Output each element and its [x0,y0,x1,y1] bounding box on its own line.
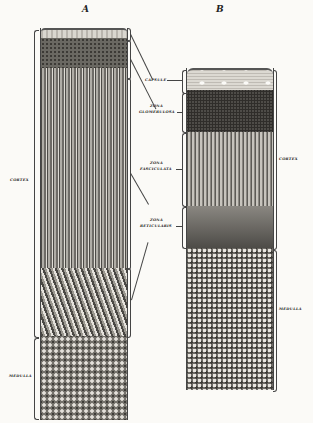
panel-b-medulla-brace [273,250,277,392]
panel-b-fasciculata [187,132,273,206]
panel-b-reticularis [187,206,273,248]
zona-reticularis-label-line2: RETICULARIS [140,224,172,229]
panel-a-reticularis [41,268,127,336]
panel-a-cortex-label: CORTEX [10,178,29,183]
zona-glomerulosa-label-line1: ZONA [150,104,163,109]
capsule-leader-a [130,34,153,79]
capsule-label: CAPSULE [145,78,166,83]
panel-a-glomerulosa [41,38,127,68]
panel-b-glomerulosa [187,90,273,132]
reticularis-leader-a [131,242,148,300]
glomerulosa-leader-a [130,59,156,109]
fasciculata-leader-a [130,173,149,205]
panel-b-title: B [216,4,224,14]
panel-a-medulla [41,336,127,420]
panel-a-tissue [40,28,128,420]
panel-a-fasciculata [41,68,127,268]
panel-b-capsule [187,68,273,92]
panel-a-medulla-brace [34,338,39,420]
zona-glomerulosa-label-line2: GLOMERULOSA [139,110,175,115]
panel-b-cortex-brace [273,70,277,250]
panel-a-cortex-brace [34,30,39,338]
panel-b-tissue [186,68,274,390]
panel-b-medulla [187,248,273,390]
capsule-leader-b [167,80,182,81]
panel-a-title: A [82,4,89,14]
panel-a-medulla-label: MEDULLA [9,374,32,379]
zona-fasciculata-label-line2: FASCICULATA [140,167,172,172]
zona-fasciculata-label-line1: ZONA [150,161,163,166]
panel-a-reticularis-brace [127,268,131,338]
panel-b-medulla-label: MEDULLA [279,307,302,312]
panel-b-cortex-label: CORTEX [279,157,298,162]
zona-reticularis-label-line1: ZONA [150,218,163,223]
